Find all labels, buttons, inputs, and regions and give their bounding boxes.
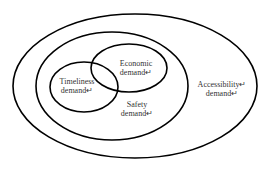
economic-demand-label: Economic demand↵ [120, 59, 153, 77]
safety-demand-label: Safety demand↵ [121, 100, 153, 118]
timeliness-demand-label: Timeliness demand↵ [60, 77, 95, 95]
safety-label-line2: demand↵ [121, 109, 153, 118]
accessibility-label-line1: Accessibility↵ [198, 80, 247, 89]
economic-label-line1: Economic [120, 59, 153, 68]
timeliness-label-line1: Timeliness [60, 77, 95, 86]
safety-demand-ellipse [36, 32, 188, 140]
economic-label-line2: demand↵ [120, 68, 152, 77]
accessibility-demand-label: Accessibility↵ demand↵ [198, 80, 247, 98]
safety-label-line1: Safety [127, 100, 147, 109]
accessibility-label-line2: demand↵ [206, 89, 238, 98]
venn-diagram: Timeliness demand↵ Economic demand↵ Safe… [0, 0, 269, 169]
timeliness-label-line2: demand↵ [61, 86, 93, 95]
